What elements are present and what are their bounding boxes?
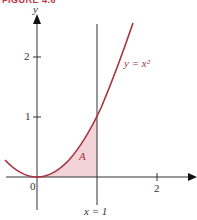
y-axis-arrow-icon [33, 14, 41, 24]
region-label-a: A [79, 150, 86, 162]
y-axis-label: y [33, 3, 38, 15]
y-tick-label-2: 2 [24, 50, 30, 62]
curve-label: y = x² [124, 57, 150, 69]
parabola-curve [5, 23, 133, 177]
shaded-region-a [37, 117, 97, 177]
vertical-line-label: x = 1 [84, 205, 107, 217]
x-tick-label-0: 0 [30, 180, 36, 192]
x-axis-arrow-icon [188, 173, 197, 181]
x-tick-label-2: 2 [154, 182, 160, 194]
y-tick-label-1: 1 [25, 110, 31, 122]
